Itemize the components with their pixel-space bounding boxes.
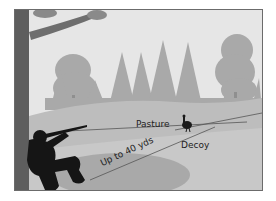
decoy-label: Decoy <box>181 140 209 150</box>
scene-graphic <box>15 10 262 190</box>
hunting-setup-illustration: Pasture Decoy Up to 40 yds <box>14 9 263 191</box>
tree-trunk <box>15 10 29 190</box>
pasture-label: Pasture <box>136 119 170 129</box>
